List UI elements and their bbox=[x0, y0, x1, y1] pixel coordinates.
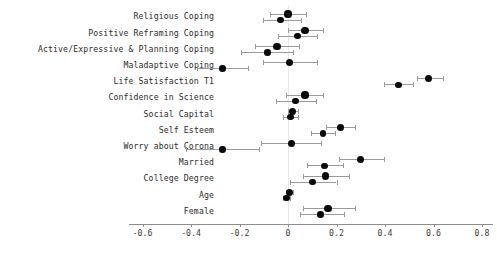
interval-cap bbox=[443, 76, 444, 81]
category-label: Self Esteem bbox=[159, 126, 214, 134]
axis-tick bbox=[482, 224, 483, 227]
category-label: Active/Expressive & Planning Coping bbox=[38, 45, 214, 53]
axis-tick-label: 0.2 bbox=[317, 229, 357, 237]
axis-tick-label: 0.6 bbox=[414, 229, 454, 237]
axis-tick bbox=[191, 224, 192, 227]
category-label: Social Capital bbox=[144, 110, 214, 118]
axis-tick bbox=[385, 224, 386, 227]
axis-tick bbox=[143, 224, 144, 227]
axis-line bbox=[129, 224, 493, 225]
axis-tick bbox=[434, 224, 435, 227]
axis-tick-label: 0 bbox=[268, 229, 308, 237]
x-axis: -0.6-0.4-0.200.20.40.60.8 bbox=[216, 0, 434, 255]
category-labels: Religious CopingPositive Reframing Copin… bbox=[0, 0, 214, 255]
interval-cap bbox=[197, 66, 198, 71]
category-label: College Degree bbox=[144, 174, 214, 182]
axis-tick bbox=[288, 224, 289, 227]
category-label: Religious Coping bbox=[134, 12, 214, 20]
axis-tick-label: -0.4 bbox=[171, 229, 211, 237]
category-label: Age bbox=[199, 191, 214, 199]
axis-tick-label: 0.8 bbox=[462, 229, 497, 237]
axis-tick-label: -0.2 bbox=[220, 229, 260, 237]
axis-tick-label: -0.6 bbox=[123, 229, 163, 237]
axis-tick-label: 0.4 bbox=[365, 229, 405, 237]
interval-cap bbox=[186, 147, 187, 152]
category-label: Confidence in Science bbox=[108, 93, 214, 101]
category-label: Positive Reframing Coping bbox=[88, 29, 214, 37]
axis-tick bbox=[337, 224, 338, 227]
category-label: Married bbox=[179, 158, 214, 166]
category-label: Female bbox=[184, 207, 214, 215]
category-label: Life Satisfaction T1 bbox=[113, 77, 214, 85]
axis-tick bbox=[240, 224, 241, 227]
